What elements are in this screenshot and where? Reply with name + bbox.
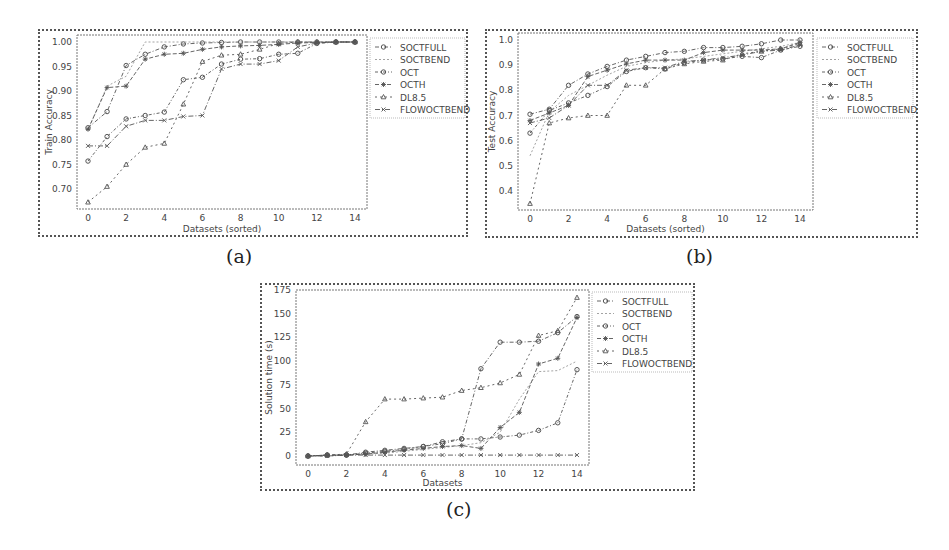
- chart-c: 024681012140255075100125150175DatasetsSo…: [264, 285, 692, 488]
- octh-marker: [86, 127, 91, 132]
- x-tick-label: 10: [717, 214, 729, 224]
- y-tick-label: 75: [280, 380, 291, 390]
- x-axis-label: Datasets (sorted): [183, 224, 262, 234]
- x-tick-label: 0: [527, 214, 533, 224]
- dl8.5-marker: [162, 141, 167, 145]
- oct-marker: [162, 110, 166, 114]
- chart-a: 024681012140.700.750.800.850.900.951.00D…: [44, 35, 470, 234]
- legend-label: DL8.5: [400, 93, 426, 103]
- octh-marker: [555, 356, 560, 361]
- series-oct: [86, 40, 357, 163]
- octh-marker: [663, 58, 668, 63]
- octh-marker: [382, 450, 387, 455]
- legend-label: FLOWOCTBEND: [622, 359, 692, 369]
- legend-label: SOCTBEND: [400, 55, 450, 65]
- y-tick-label: 0.6: [499, 136, 514, 146]
- dl8.5-marker: [624, 83, 629, 87]
- legend-label: SOCTFULL: [847, 43, 893, 53]
- dl8.5-marker: [219, 53, 224, 57]
- octh-marker: [624, 61, 629, 66]
- dl8.5-marker: [143, 145, 148, 149]
- y-tick-label: 150: [274, 309, 291, 319]
- dl8.5-marker: [517, 372, 522, 376]
- x-tick-label: 12: [311, 213, 322, 223]
- y-tick-label: 0.95: [52, 62, 72, 72]
- dl8.5-marker: [459, 388, 464, 392]
- x-tick-label: 6: [200, 213, 206, 223]
- soctfull-marker: [143, 52, 147, 56]
- octh-marker: [547, 110, 552, 115]
- y-axis-label: Train Accuracy: [44, 89, 54, 156]
- dl8.5-marker: [238, 52, 243, 56]
- octh-marker: [478, 446, 483, 451]
- legend-octh-marker: [603, 336, 608, 341]
- y-tick-label: 0.85: [52, 111, 72, 121]
- dl8.5-marker: [105, 184, 110, 188]
- soctfull-marker: [566, 83, 570, 87]
- oct-marker: [528, 131, 532, 135]
- octh-marker: [124, 84, 129, 89]
- legend-octh-marker: [381, 82, 386, 87]
- soctfull-marker: [759, 42, 763, 46]
- flowoctbend-marker: [547, 116, 551, 120]
- legend-label: SOCTBEND: [622, 309, 672, 319]
- y-tick-label: 125: [274, 332, 291, 342]
- octh-marker: [536, 361, 541, 366]
- dl8.5-marker: [498, 380, 503, 384]
- y-tick-label: 1.00: [52, 37, 72, 47]
- octh-marker: [143, 57, 148, 62]
- x-tick-label: 10: [494, 469, 506, 479]
- y-tick-label: 0.80: [52, 135, 72, 145]
- series-dl85: [528, 41, 803, 205]
- legend-label: SOCTFULL: [400, 43, 446, 53]
- series-flowoctbend: [86, 40, 357, 148]
- y-tick-label: 0.90: [52, 86, 72, 96]
- legend-label: OCT: [622, 322, 641, 332]
- dl8.5-marker: [575, 295, 580, 299]
- x-tick-label: 10: [273, 213, 285, 223]
- octh-marker: [498, 425, 503, 430]
- dl8.5-marker: [479, 385, 484, 389]
- y-tick-label: 100: [274, 356, 291, 366]
- legend-label: SOCTBEND: [847, 55, 897, 65]
- legend-octh-marker: [828, 82, 833, 87]
- x-tick-label: 14: [349, 213, 361, 223]
- y-tick-label: 25: [280, 427, 291, 437]
- octh-marker: [459, 443, 464, 448]
- legend-label: FLOWOCTBEND: [400, 105, 470, 115]
- x-tick-label: 2: [344, 469, 350, 479]
- x-tick-label: 2: [566, 214, 572, 224]
- y-tick-label: 0.70: [52, 184, 72, 194]
- dl8.5-marker: [402, 397, 407, 401]
- octh-marker: [363, 452, 368, 457]
- oct-marker: [575, 367, 579, 371]
- y-axis-label: Solution time (s): [264, 340, 274, 414]
- dl8.5-marker: [257, 47, 262, 51]
- oct-marker: [517, 433, 521, 437]
- y-tick-label: 50: [280, 404, 292, 414]
- legend-label: OCT: [847, 68, 866, 78]
- y-tick-label: 0.9: [499, 60, 514, 70]
- octh-marker: [605, 68, 610, 73]
- x-axis-label: Datasets: [423, 478, 463, 488]
- y-tick-label: 0.5: [499, 161, 513, 171]
- octh-marker: [421, 446, 426, 451]
- legend-label: OCTH: [400, 80, 426, 90]
- octh-marker: [181, 51, 186, 56]
- y-tick-label: 0: [285, 451, 291, 461]
- octh-marker: [105, 85, 110, 90]
- legend-c: SOCTFULLSOCTBENDOCTOCTHDL8.5FLOWOCTBEND: [592, 292, 692, 372]
- legend-label: DL8.5: [847, 93, 873, 103]
- charts-canvas: 024681012140.700.750.800.850.900.951.00D…: [0, 0, 949, 550]
- dl8.5-marker: [200, 59, 205, 63]
- legend-label: OCTH: [622, 334, 648, 344]
- y-tick-label: 175: [274, 285, 291, 295]
- x-tick-label: 0: [305, 469, 311, 479]
- octh-marker: [720, 48, 725, 53]
- y-tick-label: 0.8: [499, 85, 514, 95]
- octh-marker: [575, 315, 580, 320]
- series-dl85: [86, 40, 358, 205]
- x-tick-label: 0: [85, 213, 91, 223]
- x-tick-label: 14: [571, 469, 583, 479]
- x-tick-label: 8: [681, 214, 687, 224]
